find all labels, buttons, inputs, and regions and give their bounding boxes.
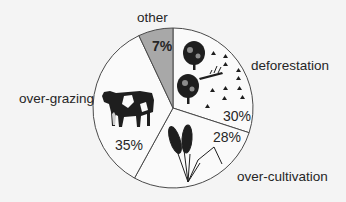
label-other: other (137, 10, 168, 25)
label-over-cultivation: over-cultivation (237, 169, 328, 184)
label-deforestation: deforestation (251, 58, 329, 73)
pie-chart: 7% 30% 28% 35% other deforestation over-… (0, 0, 346, 202)
pct-deforestation: 30% (223, 108, 251, 124)
label-over-grazing: over-grazing (19, 91, 94, 106)
pct-over-grazing: 35% (115, 137, 143, 153)
pct-over-cultivation: 28% (213, 129, 241, 145)
pct-other: 7% (152, 38, 173, 54)
